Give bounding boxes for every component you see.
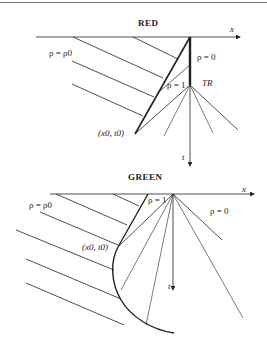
green-shock: [118, 194, 148, 247]
red-time-point: TR: [202, 78, 213, 88]
green-curved-shock: [113, 247, 174, 333]
red-right-density: ρ = 0: [197, 52, 216, 62]
red-t-label: t: [182, 152, 185, 162]
red-middle-density: ρ = 1: [167, 80, 186, 90]
green-point-label: (x0, t0): [82, 242, 108, 252]
red-title: RED: [138, 18, 159, 28]
green-left-density: ρ = ρ0: [29, 200, 52, 210]
red-x-label: x: [230, 24, 234, 34]
green-middle-density: ρ = 1: [148, 195, 167, 205]
red-point-label: (x0, t0): [98, 128, 124, 138]
green-title: GREEN: [128, 172, 163, 182]
green-t-label: t: [168, 281, 171, 291]
green-x-label: x: [242, 184, 246, 194]
green-right-density: ρ = 0: [210, 206, 229, 216]
red-left-density: ρ = ρ0: [49, 48, 72, 58]
